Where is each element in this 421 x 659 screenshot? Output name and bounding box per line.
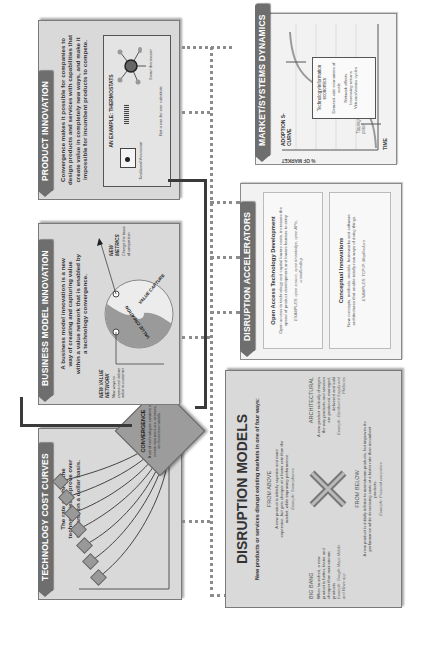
open-access-title: Open Access Technology Development: [270, 193, 276, 348]
open-access-example: EXAMPLES: open source, open knowledge, o…: [293, 217, 303, 324]
x-axis-label: TIME: [382, 138, 388, 150]
disruption-accelerators-title: DISRUPTION ACCELERATORS: [240, 202, 255, 351]
disruption-x-icon: [308, 469, 348, 509]
infographic-canvas: TECHNOLOGY COST CURVES The rate at which…: [0, 0, 421, 659]
smart-thermostat-icon: [114, 46, 148, 86]
connector-product-up: [168, 179, 207, 182]
adoption-s-curve-label: ADOPTION S-CURVE: [280, 110, 292, 146]
conceptual-innovations-title: Conceptual Innovations: [338, 193, 344, 348]
connector-convergence-to-business: [20, 424, 132, 427]
disruption-models-panel: DISRUPTION MODELS New products or servic…: [225, 370, 402, 608]
big-bang-example: Example: Google Maps Mobile and Waze app: [337, 543, 347, 599]
from-below-text: A new product is initially inferior to m…: [362, 421, 377, 557]
product-innovation-title: PRODUCT INNOVATION: [38, 71, 53, 191]
open-access-box: Open Access Technology Development Open …: [263, 192, 323, 349]
from-above-text: A new product is initially superior and …: [274, 439, 289, 539]
economics-item-1: Demand-side economies of scale: [331, 58, 341, 118]
product-innovation-panel: PRODUCT INNOVATION Convergence makes it …: [38, 20, 180, 200]
disruption-models-subtitle: New products or services disrupt existin…: [254, 371, 260, 607]
conceptual-innovations-example: EXAMPLES: TCP/IP, MapReduce: [361, 193, 366, 348]
new-metrics: NEW METRICS Change the basis of competit…: [109, 226, 131, 256]
architectural-example: Example: Distributed Supply and Platform…: [337, 377, 347, 439]
convergence-text: CONVERGENCE A set of technologies combin…: [140, 403, 162, 459]
big-bang-section: BIG BANG When launched, a new product is…: [308, 543, 347, 599]
disruption-models-title: DISRUPTION MODELS: [234, 371, 250, 607]
dotted-line-to-product: [182, 111, 210, 114]
from-below-section: FROM BELOW A new product is initially in…: [354, 421, 383, 557]
dotted-line-to-market: [182, 46, 232, 49]
new-metrics-text: Change the basis of competition: [122, 226, 131, 256]
big-bang-title: BIG BANG: [308, 543, 314, 599]
economics-callout-box: Technology/information economics: Demand…: [312, 57, 376, 119]
from-above-example: Example: Smartphones: [290, 439, 295, 539]
connector-business-top: [20, 397, 23, 427]
dotted-line-to-accelerators-3: [210, 311, 240, 314]
new-metrics-title: NEW METRICS: [109, 226, 120, 256]
from-below-title: FROM BELOW: [354, 421, 360, 557]
smart-thermostat-label: Smart thermostat: [148, 49, 153, 80]
traditional-thermostat-label: Traditional thermostat: [138, 142, 143, 180]
dotted-line-to-accelerators-2: [210, 256, 240, 259]
economics-callout-title: Technology/information economics:: [317, 58, 328, 118]
big-bang-text: When launched, a new product is better, …: [316, 543, 336, 599]
convergence-description: A set of technologies combine to create …: [148, 403, 162, 459]
dotted-line-to-business: [182, 336, 210, 339]
architectural-title: ARCHITECTURAL: [308, 377, 314, 439]
convergence-title: CONVERGENCE: [140, 403, 146, 459]
traditional-thermostat-icon: [120, 148, 136, 168]
open-access-text: Open access to technology and capital lo…: [278, 203, 288, 338]
connector-product-bottom: [204, 179, 207, 409]
disruption-accelerators-panel: DISRUPTION ACCELERATORS Open Access Tech…: [240, 183, 402, 360]
architectural-section: ARCHITECTURAL A new product radically ch…: [308, 377, 347, 439]
conceptual-innovations-text: New concepts, methods, models, framework…: [346, 205, 356, 336]
business-model-innovation-panel: BUSINESS MODEL INNOVATION A business mod…: [38, 223, 180, 405]
dotted-line-main: [210, 47, 213, 597]
thermostat-footer: Not a one-for-one substitute: [158, 36, 163, 186]
product-innovation-description: Convergence makes it possible for compan…: [59, 31, 89, 189]
conceptual-innovations-box: Conceptual Innovations New concepts, met…: [329, 192, 391, 349]
architectural-text: A new product radically changes the way …: [316, 377, 336, 439]
economics-item-4: Virtuous/vicious cycles: [353, 58, 358, 118]
thermostat-example-box: AN EXAMPLE: THERMOSTATS Traditional ther…: [103, 35, 171, 187]
dotted-line-to-accelerators-1: [210, 201, 240, 204]
y-axis-label: % OF MARKET: [281, 158, 315, 163]
from-above-title: FROM ABOVE: [266, 439, 272, 539]
from-below-example: Example: Personal computers: [378, 421, 383, 557]
dotted-line-to-tech: [182, 520, 210, 523]
arrow-icon: [124, 104, 129, 124]
from-above-section: FROM ABOVE A new product is initially su…: [266, 439, 295, 539]
